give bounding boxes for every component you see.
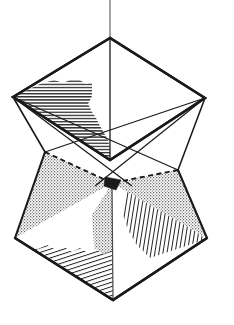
upper-right-face (110, 38, 205, 160)
geometric-figure-svg (0, 0, 234, 325)
center-node-marker (104, 177, 121, 190)
figure-canvas: Upper inverted square pyramid and lower … (0, 0, 234, 325)
